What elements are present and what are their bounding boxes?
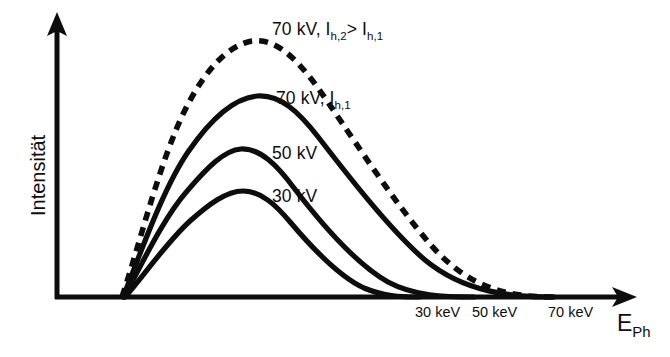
series-label-30kv: 30 kV: [272, 188, 317, 206]
curve-70kv-ih2-dashed: [122, 41, 554, 297]
series-label-70kv-ih2-mid: > I: [347, 19, 367, 39]
x-axis-title-main: E: [617, 310, 632, 336]
series-label-70kv-ih2-sub2: h,1: [367, 30, 383, 42]
x-tick-label-50kev: 50 keV: [472, 305, 517, 320]
series-label-70kv-ih2: 70 kV, Ih,2> Ih,1: [272, 21, 383, 39]
series-label-50kv: 50 kV: [272, 145, 317, 163]
series-label-70kv-ih1: 70 kV, Ih,1: [276, 90, 351, 108]
y-axis-title: Intensität: [28, 135, 48, 216]
x-tick-label-30kev: 30 keV: [415, 305, 460, 320]
series-label-70kv-ih1-sub1: h,1: [335, 99, 351, 111]
series-label-70kv-ih1-main: 70 kV, I: [276, 88, 335, 108]
series-label-70kv-ih2-sub1: h,2: [331, 30, 347, 42]
x-tick-label-70kev: 70 keV: [548, 305, 593, 320]
xray-spectrum-figure: Intensität EPh 70 kV, Ih,2> Ih,1 70 kV, …: [0, 0, 670, 357]
curve-70kv-ih1: [123, 96, 554, 297]
x-axis-title-sub: Ph: [632, 323, 650, 340]
series-label-70kv-ih2-main: 70 kV, I: [272, 19, 331, 39]
y-axis: [47, 12, 67, 299]
x-axis-title: EPh: [617, 312, 651, 335]
